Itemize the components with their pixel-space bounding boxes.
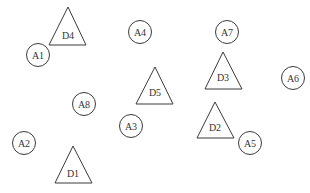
circle-node-a5: A5 bbox=[239, 132, 262, 155]
circle-node-a7: A7 bbox=[216, 21, 239, 44]
triangle-label: D3 bbox=[217, 72, 229, 83]
triangle-label: D2 bbox=[209, 122, 221, 133]
node-placement-diagram: D1D2D3D4D5 A1A2A3A4A5A6A7A8 bbox=[0, 0, 310, 193]
triangle-node-d4: D4 bbox=[49, 7, 86, 45]
circle-label: A3 bbox=[125, 121, 137, 132]
circle-node-a6: A6 bbox=[282, 67, 305, 90]
circle-node-a2: A2 bbox=[13, 132, 36, 155]
circle-node-a8: A8 bbox=[73, 93, 96, 116]
triangle-label: D4 bbox=[62, 30, 74, 41]
triangle-node-d5: D5 bbox=[136, 67, 173, 104]
triangle-node-d2: D2 bbox=[197, 102, 234, 138]
triangle-icon bbox=[136, 67, 173, 104]
circle-node-a3: A3 bbox=[120, 115, 143, 138]
triangle-label: D1 bbox=[67, 168, 79, 179]
triangle-node-d3: D3 bbox=[205, 52, 242, 89]
circle-label: A5 bbox=[244, 138, 256, 149]
circle-label: A8 bbox=[78, 99, 90, 110]
circle-label: A6 bbox=[287, 73, 299, 84]
triangle-label: D5 bbox=[149, 87, 161, 98]
circle-label: A4 bbox=[134, 27, 146, 38]
circle-label: A2 bbox=[18, 138, 30, 149]
circle-label: A1 bbox=[32, 50, 44, 61]
triangle-node-d1: D1 bbox=[55, 146, 92, 183]
triangle-icon bbox=[205, 52, 242, 89]
circle-node-a1: A1 bbox=[27, 44, 50, 67]
circle-node-a4: A4 bbox=[129, 21, 152, 44]
circle-label: A7 bbox=[221, 27, 233, 38]
triangle-icon bbox=[197, 102, 234, 138]
